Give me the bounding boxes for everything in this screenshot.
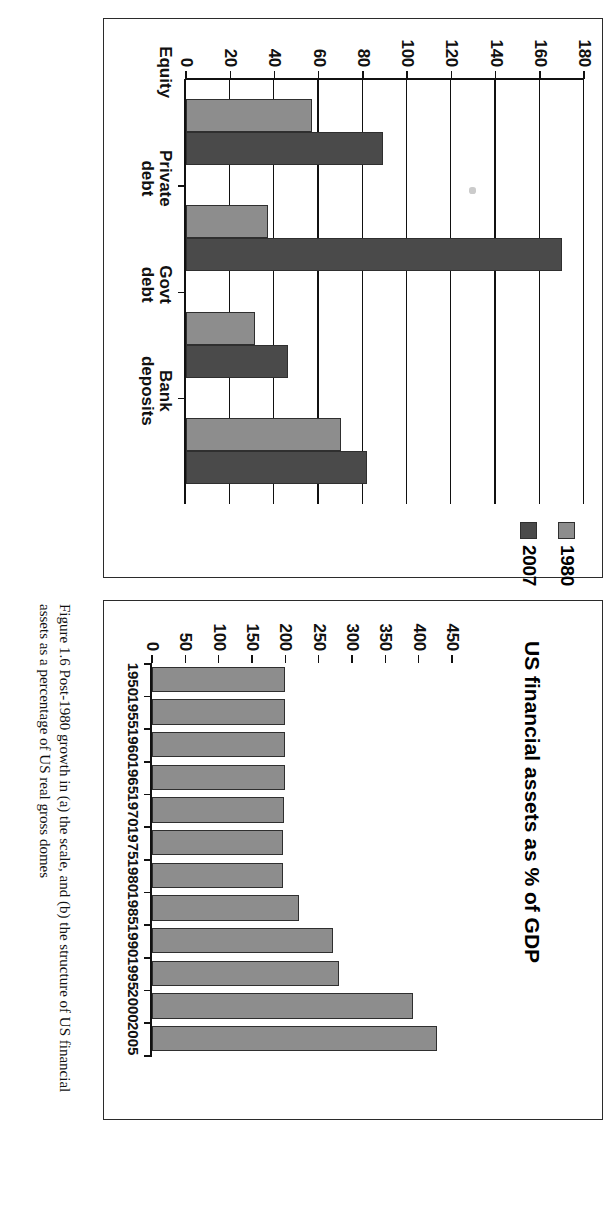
y-tick-label-40: 40 xyxy=(264,23,284,67)
y-tick-label-100: 100 xyxy=(397,23,417,67)
y-tick-label-a-50: 50 xyxy=(175,605,195,651)
legend-swatch-1980-icon xyxy=(559,522,576,539)
x-sep-tick-0 xyxy=(178,185,186,187)
gridline-120 xyxy=(450,79,451,504)
x-year-label-1995: 1995 xyxy=(125,957,141,990)
x-tick-a-7 xyxy=(144,892,152,894)
x-category-label-3: Bankdeposits xyxy=(138,331,174,451)
x-year-label-1975: 1975 xyxy=(125,826,141,859)
scanned-page: 020406080100120140160180EquityPrivatedeb… xyxy=(0,0,615,1206)
bar-b-govt-debt-1980 xyxy=(186,312,255,345)
bar-b-govt-debt-2007 xyxy=(186,345,288,378)
y-tick-label-a-450: 450 xyxy=(442,605,462,651)
x-year-label-1965: 1965 xyxy=(125,761,141,794)
legend-swatch-2007-icon xyxy=(521,522,538,539)
y-tick-label-140: 140 xyxy=(486,23,506,67)
gridline-140 xyxy=(494,79,495,504)
y-tick-a-200 xyxy=(285,655,287,663)
y-tick-80 xyxy=(362,71,364,79)
x-year-label-1950: 1950 xyxy=(125,663,141,696)
y-tick-label-a-0: 0 xyxy=(142,605,162,651)
y-tick-a-350 xyxy=(385,655,387,663)
legend-b: 19802007 xyxy=(502,522,578,586)
bar-a-2005 xyxy=(152,1026,437,1051)
bar-b-equity-2007 xyxy=(186,132,383,165)
x-year-label-2000: 2000 xyxy=(125,989,141,1022)
plot-area-b: 020406080100120140160180EquityPrivatedeb… xyxy=(186,79,584,504)
y-tick-label-60: 60 xyxy=(309,23,329,67)
scan-artifact xyxy=(469,187,476,194)
x-year-label-1990: 1990 xyxy=(125,924,141,957)
x-category-label-2: Govtdebt xyxy=(138,225,174,345)
x-year-label-1960: 1960 xyxy=(125,728,141,761)
y-tick-0 xyxy=(185,71,187,79)
y-tick-label-120: 120 xyxy=(441,23,461,67)
bar-a-1955 xyxy=(152,699,285,724)
legend-row-1980: 1980 xyxy=(556,522,578,586)
gridline-180 xyxy=(583,79,584,504)
bar-a-1950 xyxy=(152,667,285,692)
x-sep-tick-1 xyxy=(178,292,186,294)
legend-row-2007: 2007 xyxy=(518,522,540,586)
y-tick-a-450 xyxy=(451,655,453,663)
x-year-label-1980: 1980 xyxy=(125,859,141,892)
y-tick-a-250 xyxy=(318,655,320,663)
x-category-label-0: Equity xyxy=(156,12,174,132)
x-tick-a-10 xyxy=(144,990,152,992)
x-tick-a-6 xyxy=(144,859,152,861)
y-tick-label-a-300: 300 xyxy=(342,605,362,651)
x-year-label-1970: 1970 xyxy=(125,793,141,826)
x-tick-a-3 xyxy=(144,761,152,763)
y-tick-a-150 xyxy=(251,655,253,663)
x-tick-a-1 xyxy=(144,696,152,698)
y-tick-20 xyxy=(230,71,232,79)
y-tick-a-300 xyxy=(351,655,353,663)
y-tick-label-a-100: 100 xyxy=(209,605,229,651)
x-year-label-2005: 2005 xyxy=(125,1022,141,1055)
y-tick-label-20: 20 xyxy=(220,23,240,67)
y-tick-40 xyxy=(274,71,276,79)
x-tick-a-end xyxy=(144,1055,152,1057)
y-tick-60 xyxy=(318,71,320,79)
bar-b-private-debt-2007 xyxy=(186,238,562,271)
panel-a-scale-chart: US financial assets as % of GDP 05010015… xyxy=(103,600,603,1120)
y-tick-a-50 xyxy=(185,655,187,663)
y-tick-label-a-400: 400 xyxy=(409,605,429,651)
y-tick-label-80: 80 xyxy=(353,23,373,67)
y-tick-label-a-150: 150 xyxy=(242,605,262,651)
bar-a-1980 xyxy=(152,863,283,888)
y-tick-a-400 xyxy=(418,655,420,663)
bar-a-2000 xyxy=(152,993,413,1018)
y-tick-label-0: 0 xyxy=(176,23,196,67)
panel-b-structure-chart: 020406080100120140160180EquityPrivatedeb… xyxy=(103,18,603,578)
y-axis-line-b xyxy=(186,78,584,80)
bar-a-1995 xyxy=(152,961,339,986)
bar-a-1960 xyxy=(152,732,285,757)
gridline-160 xyxy=(539,79,540,504)
y-tick-160 xyxy=(539,71,541,79)
x-year-label-1955: 1955 xyxy=(125,695,141,728)
y-tick-label-180: 180 xyxy=(574,23,594,67)
bar-a-1975 xyxy=(152,830,283,855)
x-tick-a-9 xyxy=(144,957,152,959)
y-tick-label-a-350: 350 xyxy=(375,605,395,651)
rotated-page-stage: 020406080100120140160180EquityPrivatedeb… xyxy=(0,0,615,1206)
plot-area-a: 0501001502002503003504004501950195519601… xyxy=(152,663,452,1055)
x-tick-a-2 xyxy=(144,728,152,730)
y-tick-a-100 xyxy=(218,655,220,663)
x-category-label-1: Privatedebt xyxy=(138,118,174,238)
legend-label-1980: 1980 xyxy=(556,545,578,586)
bar-b-bank-deposits-2007 xyxy=(186,451,367,484)
y-tick-label-a-250: 250 xyxy=(309,605,329,651)
x-tick-a-0 xyxy=(144,663,152,665)
y-tick-label-160: 160 xyxy=(530,23,550,67)
y-tick-120 xyxy=(451,71,453,79)
bar-a-1990 xyxy=(152,928,333,953)
bar-b-bank-deposits-1980 xyxy=(186,418,341,451)
bar-a-1985 xyxy=(152,895,299,920)
x-tick-a-5 xyxy=(144,826,152,828)
y-tick-100 xyxy=(406,71,408,79)
x-tick-a-11 xyxy=(144,1022,152,1024)
gridline-100 xyxy=(406,79,407,504)
y-tick-label-a-200: 200 xyxy=(275,605,295,651)
